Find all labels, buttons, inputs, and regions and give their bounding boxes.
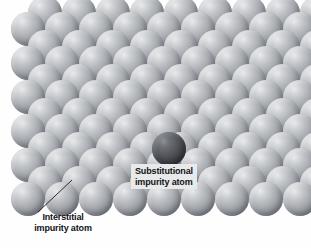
interstitial-label-line1: Interstitial: [17, 212, 109, 223]
substitutional-label: Substitutional impurity atom: [131, 164, 197, 189]
interstitial-leader-line: [0, 0, 311, 248]
substitutional-label-line1: Substitutional: [135, 166, 193, 177]
interstitial-label-line2: impurity atom: [17, 223, 109, 234]
substitutional-label-line2: impurity atom: [135, 177, 193, 188]
interstitial-label: Interstitial impurity atom: [17, 212, 109, 233]
figure-canvas: Substitutional impurity atom Interstitia…: [0, 0, 311, 248]
